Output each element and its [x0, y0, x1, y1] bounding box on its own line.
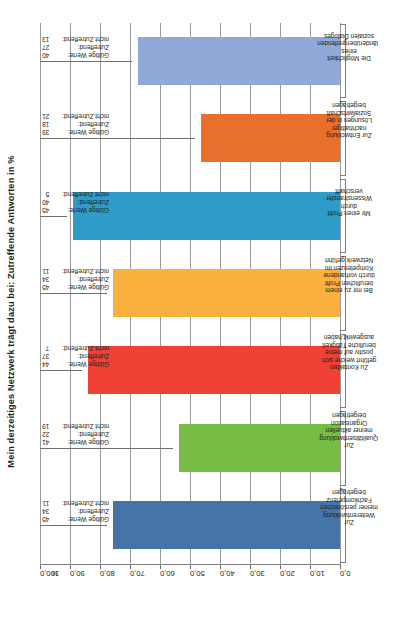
bar[interactable]	[88, 346, 340, 394]
category-label: Zur Entwicklung nachhaltiger Lösungen in…	[320, 77, 378, 139]
annotation-row: nicht Zutreffend: 19	[42, 421, 109, 429]
category-label: Zu Kontakten geführt welche sich positiv…	[320, 309, 378, 371]
annotation-row: Zutreffend: 34	[42, 507, 109, 515]
annotation-value: 22	[42, 429, 51, 437]
annotation-key: nicht Zutreffend:	[51, 266, 109, 274]
annotation-row: Zutreffend: 34	[42, 275, 109, 283]
annotation-key: Zutreffend:	[51, 197, 109, 205]
annotation-text: Gültige Werte: 41Zutreffend: 22nicht Zut…	[42, 421, 109, 446]
annotation-row: nicht Zutreffend: 5	[42, 189, 109, 197]
annotation-text: Gültige Werte: 45Zutreffend: 34nicht Zut…	[42, 499, 109, 524]
annotation-key: Gültige Werte:	[51, 283, 109, 291]
annotation-value: 44	[42, 360, 51, 368]
annotation-value: 18	[42, 120, 51, 128]
bar[interactable]	[73, 192, 340, 240]
annotation-value: 45	[42, 205, 51, 213]
annotation-leader-line	[40, 61, 132, 62]
annotation-key: nicht Zutreffend:	[51, 112, 109, 120]
annotation-value: 19	[42, 421, 51, 429]
chart-title: Mein derzeitiges Netzwerk trägt dazu bei…	[6, 0, 16, 623]
category-label: Mir einen Profit durch Wissenstransfer v…	[320, 155, 378, 217]
annotation-text: Gültige Werte: 40Zutreffend: 27nicht Zut…	[42, 34, 109, 59]
annotation-key: nicht Zutreffend:	[51, 34, 109, 42]
annotation-value: 34	[42, 275, 51, 283]
bar[interactable]	[179, 424, 340, 472]
annotation-value: 45	[42, 283, 51, 291]
chart-stage: Mein derzeitiges Netzwerk trägt dazu bei…	[0, 0, 407, 623]
annotation-key: Zutreffend:	[51, 507, 109, 515]
annotation-leader-line	[40, 138, 195, 139]
annotation-value: 11	[42, 499, 51, 507]
annotation-row: nicht Zutreffend: 21	[42, 112, 109, 120]
annotation-value: 5	[46, 189, 51, 197]
annotation-leader-line	[40, 293, 107, 294]
annotation-key: Gültige Werte:	[51, 438, 109, 446]
bar[interactable]	[113, 269, 340, 317]
annotation-value: 39	[42, 128, 51, 136]
annotation-key: Gültige Werte:	[51, 360, 109, 368]
annotation-key: Zutreffend:	[51, 352, 109, 360]
annotation-row: Gültige Werte: 45	[42, 515, 109, 523]
annotation-row: Gültige Werte: 40	[42, 51, 109, 59]
category-label: Zur Weiterentwicklung meiner persönliche…	[320, 464, 378, 526]
annotation-value: 40	[42, 51, 51, 59]
annotation-value: 21	[42, 112, 51, 120]
annotation-value: 37	[42, 352, 51, 360]
annotation-key: nicht Zutreffend:	[51, 189, 109, 197]
annotation-key: Zutreffend:	[51, 120, 109, 128]
annotation-leader-line	[40, 370, 82, 371]
category-label: Die Möglichkeit eines länderübergreifend…	[320, 0, 378, 62]
annotation-row: Gültige Werte: 45	[42, 205, 109, 213]
annotation-leader-line	[40, 216, 67, 217]
annotation-value: 11	[42, 266, 51, 274]
annotation-key: nicht Zutreffend:	[51, 421, 109, 429]
annotation-row: Gültige Werte: 41	[42, 438, 109, 446]
annotation-row: Zutreffend: 37	[42, 352, 109, 360]
annotation-text: Gültige Werte: 45Zutreffend: 34nicht Zut…	[42, 266, 109, 291]
annotation-value: 45	[42, 515, 51, 523]
annotation-key: nicht Zutreffend:	[51, 344, 109, 352]
annotation-row: nicht Zutreffend: 11	[42, 499, 109, 507]
annotation-key: Gültige Werte:	[51, 205, 109, 213]
annotation-row: nicht Zutreffend: 7	[42, 344, 109, 352]
annotation-row: Gültige Werte: 45	[42, 283, 109, 291]
plot-area: 100,090,080,070,060,050,040,030,020,010,…	[40, 23, 340, 565]
annotation-value: 40	[42, 197, 51, 205]
annotation-text: Gültige Werte: 45Zutreffend: 40nicht Zut…	[42, 189, 109, 214]
annotation-row: nicht Zutreffend: 11	[42, 266, 109, 274]
annotation-value: 34	[42, 507, 51, 515]
annotation-row: Zutreffend: 18	[42, 120, 109, 128]
annotation-leader-line	[40, 448, 173, 449]
annotation-key: Zutreffend:	[51, 42, 109, 50]
annotation-leader-line	[40, 525, 107, 526]
axis-unit-label: %	[52, 570, 92, 577]
category-label: Bei mir zu einem beruflichen Profit durc…	[320, 232, 378, 294]
annotation-row: Gültige Werte: 39	[42, 128, 109, 136]
value-axis-tick-label: 0,0	[340, 569, 380, 578]
annotation-key: Gültige Werte:	[51, 51, 109, 59]
annotation-text: Gültige Werte: 39Zutreffend: 18nicht Zut…	[42, 112, 109, 137]
annotation-row: Zutreffend: 40	[42, 197, 109, 205]
annotation-row: Zutreffend: 27	[42, 42, 109, 50]
annotation-value: 27	[42, 42, 51, 50]
annotation-row: nicht Zutreffend: 13	[42, 34, 109, 42]
category-label: Zur Qualitätsentwicklung meiner aktuelle…	[320, 387, 378, 449]
rotated-chart-canvas: Mein derzeitiges Netzwerk trägt dazu bei…	[0, 0, 407, 623]
annotation-key: nicht Zutreffend:	[51, 499, 109, 507]
annotation-key: Zutreffend:	[51, 429, 109, 437]
annotation-value: 41	[42, 438, 51, 446]
bar[interactable]	[113, 501, 340, 549]
annotation-text: Gültige Werte: 44Zutreffend: 37nicht Zut…	[42, 344, 109, 369]
annotation-value: 7	[46, 344, 51, 352]
annotation-row: Gültige Werte: 44	[42, 360, 109, 368]
annotation-row: Zutreffend: 22	[42, 429, 109, 437]
bar[interactable]	[138, 37, 341, 85]
annotation-value: 13	[42, 34, 51, 42]
annotation-key: Zutreffend:	[51, 275, 109, 283]
annotation-key: Gültige Werte:	[51, 515, 109, 523]
annotation-key: Gültige Werte:	[51, 128, 109, 136]
